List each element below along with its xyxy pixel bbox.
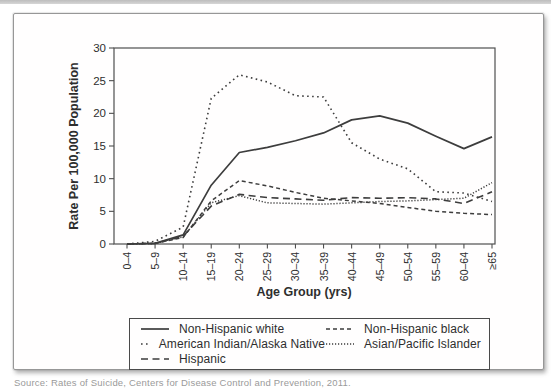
legend-label: Non-Hispanic white (179, 322, 284, 336)
x-tick-label: 10–14 (177, 252, 189, 281)
chart-legend: Non-Hispanic whiteNon-Hispanic blackAmer… (129, 318, 490, 370)
y-axis-title: Rate Per 100,000 Population (67, 62, 81, 229)
legend-label: Asian/Pacific Islander (364, 337, 481, 351)
x-tick-label: 25–29 (261, 252, 273, 281)
x-tick-label: ≥65 (486, 252, 498, 270)
legend-label: American Indian/Alaska Native (159, 337, 325, 351)
y-tick-label: 15 (93, 140, 106, 152)
x-tick-label: 0–4 (121, 252, 133, 270)
legend-line-swatch (325, 324, 355, 334)
y-tick-label: 20 (93, 107, 106, 119)
y-tick-label: 0 (100, 238, 106, 250)
legend-entry: Non-Hispanic white (140, 322, 325, 336)
x-tick-label: 30–34 (289, 252, 301, 281)
legend-entry: Asian/Pacific Islander (325, 337, 487, 351)
legend-label: Non-Hispanic black (364, 322, 469, 336)
legend-entry: Hispanic (140, 352, 325, 366)
x-tick-label: 60–64 (458, 252, 470, 281)
series-line-american-indian-alaska-native (127, 75, 492, 244)
x-tick-label: 55–59 (430, 252, 442, 281)
legend-entry: American Indian/Alaska Native (140, 337, 325, 351)
figure-frame: Rate Per 100,000 Population Age Group (y… (13, 13, 544, 370)
x-tick-label: 50–54 (402, 252, 414, 281)
y-tick-label: 25 (93, 75, 106, 87)
x-tick-label: 5–9 (149, 252, 161, 270)
x-tick-label: 35–39 (318, 252, 330, 281)
x-tick-label: 45–49 (374, 252, 386, 281)
plot-border (114, 48, 495, 244)
series-line-non-hispanic-white (127, 116, 492, 244)
legend-line-swatch (140, 354, 170, 364)
legend-line-swatch (325, 339, 355, 349)
y-tick-label: 10 (93, 173, 106, 185)
x-axis-title: Age Group (yrs) (256, 285, 351, 299)
page-top-rule (0, 0, 551, 4)
x-tick-label: 40–44 (346, 252, 358, 281)
x-tick-label: 20–24 (233, 252, 245, 281)
legend-line-swatch (140, 339, 150, 349)
x-tick-label: 15–19 (205, 252, 217, 281)
y-tick-label: 30 (93, 42, 106, 54)
legend-entry: Non-Hispanic black (325, 322, 487, 336)
source-caption: Source: Rates of Suicide, Centers for Di… (14, 377, 351, 388)
y-tick-label: 5 (100, 205, 106, 217)
legend-label: Hispanic (179, 352, 226, 366)
legend-line-swatch (140, 324, 170, 334)
